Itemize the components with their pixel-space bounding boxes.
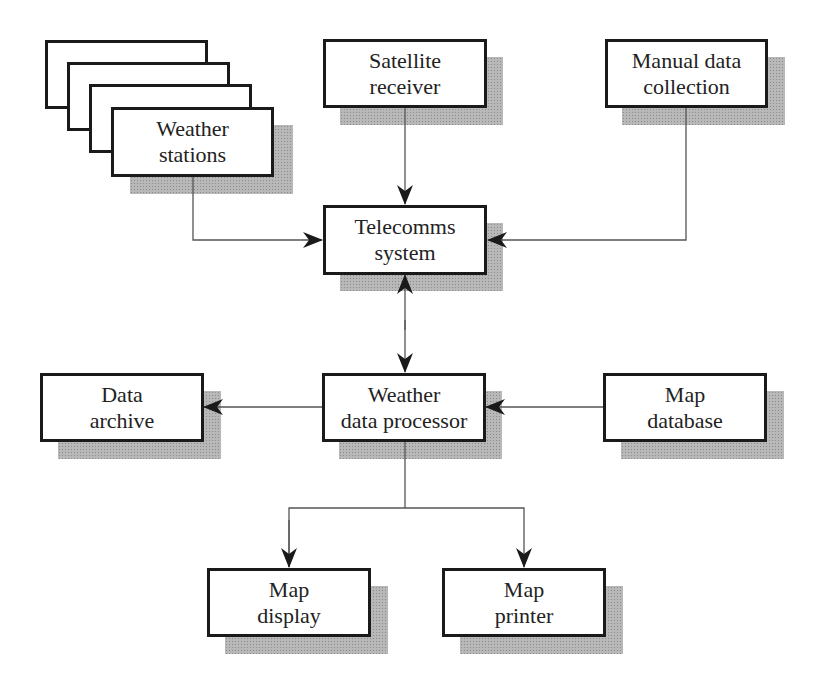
node-label-line1: Telecomms bbox=[354, 214, 455, 240]
node-data-archive[interactable]: Data archive bbox=[40, 373, 204, 442]
node-map-printer[interactable]: Map printer bbox=[442, 568, 606, 637]
node-label-line1: Map bbox=[504, 577, 544, 603]
node-label-line2: printer bbox=[495, 603, 554, 629]
node-label-line2: collection bbox=[643, 74, 730, 100]
node-map-display[interactable]: Map display bbox=[207, 568, 371, 637]
node-label-line2: system bbox=[374, 240, 435, 266]
node-label-line2: archive bbox=[90, 408, 155, 434]
node-map-database[interactable]: Map database bbox=[603, 373, 767, 442]
node-label-line1: Map bbox=[665, 382, 705, 408]
node-label-line2: display bbox=[257, 603, 321, 629]
node-label-line1: Satellite bbox=[369, 48, 441, 74]
node-weather-stations[interactable]: Weather stations bbox=[111, 107, 274, 177]
node-weather-data-processor[interactable]: Weather data processor bbox=[322, 373, 486, 442]
node-label-line2: receiver bbox=[370, 74, 441, 100]
node-manual-data-collection[interactable]: Manual data collection bbox=[605, 39, 768, 108]
node-label-line2: database bbox=[647, 408, 723, 434]
node-telecomms-system[interactable]: Telecomms system bbox=[323, 205, 487, 275]
node-label-line1: Map bbox=[269, 577, 309, 603]
node-label-line1: Data bbox=[101, 382, 143, 408]
node-label-line1: Weather bbox=[156, 116, 229, 142]
node-label-line2: data processor bbox=[341, 408, 467, 434]
node-label-line1: Manual data bbox=[632, 48, 741, 74]
node-label-line1: Weather bbox=[368, 382, 441, 408]
node-label-line2: stations bbox=[159, 142, 226, 168]
node-satellite-receiver[interactable]: Satellite receiver bbox=[323, 39, 487, 108]
